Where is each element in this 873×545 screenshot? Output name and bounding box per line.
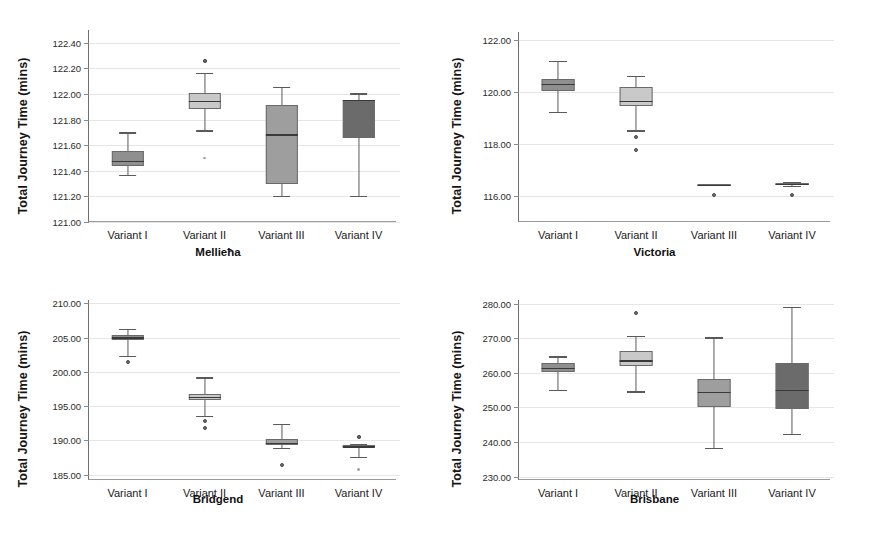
boxplot-4	[753, 32, 831, 221]
y-axis-title: Total Journey Time (mins)	[10, 0, 36, 272]
median-line	[776, 184, 809, 185]
y-axis-tick-label: 121.20	[53, 191, 81, 202]
box-iqr	[265, 105, 297, 184]
cap-lower	[119, 356, 137, 357]
y-axis-tick-label: 250.00	[483, 402, 511, 413]
box-iqr	[111, 151, 143, 166]
outlier-point	[280, 463, 284, 467]
cap-upper	[627, 336, 645, 337]
outlier-point	[357, 468, 360, 471]
boxplot-4	[320, 300, 397, 479]
cap-upper	[273, 424, 291, 425]
cap-lower	[119, 175, 137, 176]
whisker-lower	[557, 372, 558, 390]
x-axis-category-label: Variant III	[258, 229, 304, 241]
cap-upper	[119, 329, 137, 330]
plot-area-mellieha: 121.00121.20121.40121.60121.80122.00122.…	[88, 30, 396, 222]
boxplot-4	[753, 300, 831, 479]
cap-lower	[783, 434, 801, 435]
panel-title-bridgend: Bridgend	[193, 493, 243, 505]
panel-brisbane: Total Journey Time (mins) 230.00240.0025…	[436, 272, 873, 545]
outlier-point	[634, 148, 638, 152]
plot-canvas: 116.00118.00120.00122.00Variant IVariant…	[518, 32, 830, 222]
box-iqr	[776, 363, 809, 409]
whisker-upper	[791, 307, 792, 363]
whisker-lower	[204, 109, 205, 131]
y-axis-tick-label: 122.00	[483, 34, 511, 45]
x-axis-category-label: Variant IV	[768, 229, 816, 241]
outlier-point	[790, 193, 794, 197]
cap-upper	[196, 377, 214, 378]
cap-lower	[273, 196, 291, 197]
y-axis-tick-label: 120.00	[483, 86, 511, 97]
cap-lower	[350, 457, 368, 458]
plot-canvas: 230.00240.00250.00260.00270.00280.00Vari…	[518, 300, 830, 480]
gridline	[89, 222, 400, 223]
outlier-point	[203, 59, 207, 63]
y-axis-tick-label: 195.00	[53, 401, 81, 412]
cap-upper	[549, 61, 567, 62]
median-line	[188, 397, 220, 398]
y-axis-tick-label: 121.40	[53, 165, 81, 176]
boxplot-3	[675, 32, 753, 221]
y-axis-tick-label: 210.00	[53, 298, 81, 309]
whisker-upper	[281, 424, 282, 439]
whisker-upper	[127, 132, 128, 151]
whisker-lower	[127, 340, 128, 356]
cap-lower	[549, 112, 567, 113]
median-line	[111, 337, 143, 338]
panel-mellieha: Total Journey Time (mins) 121.00121.2012…	[0, 0, 436, 272]
boxplot-figure: Total Journey Time (mins) 121.00121.2012…	[0, 0, 873, 545]
boxplot-2	[166, 300, 243, 479]
y-axis-tick-label: 122.20	[53, 63, 81, 74]
boxplot-1	[519, 300, 597, 479]
y-axis-tick-label: 121.00	[53, 217, 81, 228]
box-iqr	[620, 351, 653, 367]
panel-title-victoria: Victoria	[634, 246, 676, 258]
outlier-point	[203, 419, 207, 423]
y-axis-tick-label: 116.00	[483, 191, 511, 202]
outlier-point	[712, 193, 716, 197]
y-axis-tick-label: 260.00	[483, 367, 511, 378]
y-axis-tick-label: 122.40	[53, 37, 81, 48]
y-axis-tick-label: 200.00	[53, 366, 81, 377]
whisker-upper	[281, 87, 282, 105]
y-axis-tick-label: 118.00	[483, 138, 511, 149]
whisker-upper	[557, 61, 558, 79]
box-iqr	[342, 100, 374, 138]
median-line	[698, 392, 731, 393]
x-axis-category-label: Variant I	[538, 229, 578, 241]
boxplot-2	[597, 32, 675, 221]
y-axis-tick	[84, 222, 89, 223]
x-axis-category-label: Variant I	[107, 487, 147, 499]
median-line	[265, 443, 297, 444]
y-axis-tick-label: 121.80	[53, 114, 81, 125]
median-line	[188, 101, 220, 102]
outlier-point	[126, 360, 130, 364]
boxplot-2	[597, 300, 675, 479]
whisker-lower	[281, 184, 282, 196]
x-axis-category-label: Variant III	[691, 487, 737, 499]
whisker-lower	[635, 106, 636, 130]
y-axis-tick-label: 122.00	[53, 89, 81, 100]
boxplot-3	[243, 30, 320, 221]
x-axis-category-label: Variant III	[258, 487, 304, 499]
boxplot-1	[519, 32, 597, 221]
x-axis-category-label: Variant IV	[335, 487, 383, 499]
boxplot-2	[166, 30, 243, 221]
whisker-upper	[635, 76, 636, 87]
cap-lower	[627, 130, 645, 131]
boxplot-3	[675, 300, 753, 479]
boxplot-1	[89, 30, 166, 221]
cap-lower	[627, 391, 645, 392]
y-axis-tick-label: 205.00	[53, 332, 81, 343]
median-line	[342, 100, 374, 101]
plot-area-brisbane: 230.00240.00250.00260.00270.00280.00Vari…	[518, 300, 830, 480]
median-line	[776, 390, 809, 391]
cap-upper	[350, 93, 368, 94]
whisker-lower	[713, 407, 714, 448]
cap-lower	[196, 416, 214, 417]
cap-upper	[705, 337, 723, 338]
cap-upper	[783, 307, 801, 308]
x-axis-category-label: Variant III	[691, 229, 737, 241]
